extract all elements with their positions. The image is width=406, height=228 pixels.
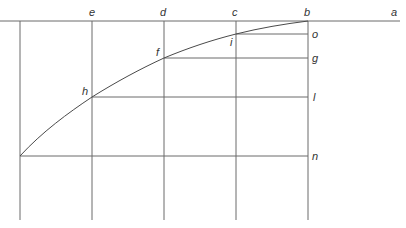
label-e: e — [89, 6, 95, 18]
label-c: c — [232, 6, 238, 18]
label-o: o — [312, 28, 318, 40]
label-i: i — [230, 36, 233, 48]
label-a: a — [391, 6, 397, 18]
label-h: h — [82, 85, 88, 97]
label-d: d — [160, 6, 167, 18]
label-n: n — [312, 150, 318, 162]
construction-diagram: e d c b a i f h o g l n — [0, 0, 406, 228]
label-f: f — [156, 46, 160, 58]
label-b: b — [304, 6, 310, 18]
label-l: l — [313, 91, 316, 103]
label-g: g — [312, 52, 319, 64]
